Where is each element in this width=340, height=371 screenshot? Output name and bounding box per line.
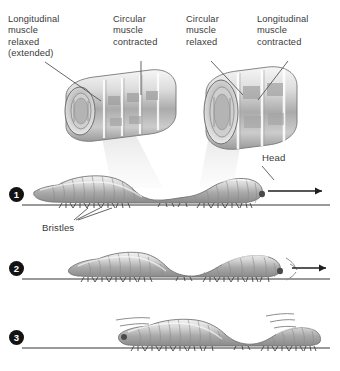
cylinder-extended-diagram <box>65 70 176 142</box>
label-bristles: Bristles <box>42 222 74 233</box>
leader-bristles <box>74 208 112 220</box>
figure-canvas: Longitudinal muscle relaxed (extended) C… <box>0 0 340 371</box>
label-longitudinal-muscle-relaxed: Longitudinal muscle relaxed (extended) <box>8 14 59 60</box>
label-head: Head <box>262 152 285 163</box>
step-badge-2: 2 <box>9 261 24 276</box>
label-circular-muscle-relaxed: Circular muscle relaxed <box>186 14 219 48</box>
motion-lines-step-2 <box>286 258 297 280</box>
cylinder-contracted-diagram <box>204 67 297 150</box>
label-longitudinal-muscle-contracted: Longitudinal muscle contracted <box>257 14 308 48</box>
leader-head <box>262 166 274 180</box>
step-badge-1: 1 <box>9 187 24 202</box>
worm-step-3 <box>116 314 321 351</box>
worm-step-2 <box>68 252 326 282</box>
label-circular-muscle-contracted: Circular muscle contracted <box>113 14 157 48</box>
step-badge-3: 3 <box>9 330 24 345</box>
worm-step-1 <box>34 166 322 220</box>
